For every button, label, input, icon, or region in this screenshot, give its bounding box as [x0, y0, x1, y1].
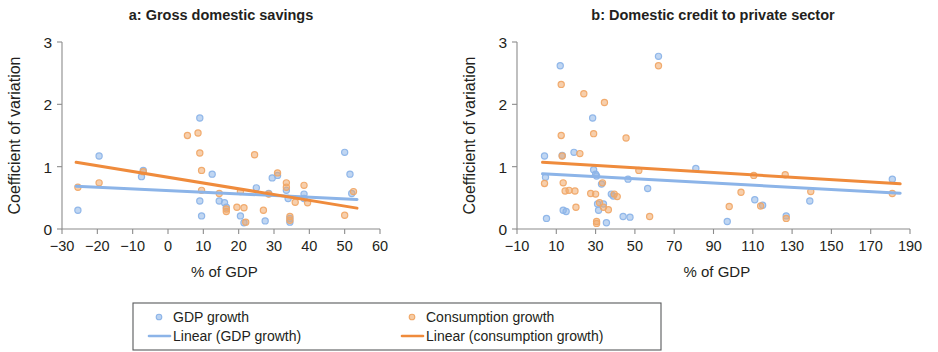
data-point: [195, 130, 201, 136]
x-tick-label: 10: [548, 238, 564, 254]
data-point: [758, 203, 764, 209]
data-point: [572, 188, 578, 194]
data-point: [342, 212, 348, 218]
data-point: [593, 220, 599, 226]
data-point: [566, 187, 572, 193]
data-point: [599, 180, 605, 186]
legend-label: Linear (consumption growth): [426, 328, 603, 344]
x-tick-label: 130: [780, 238, 804, 254]
y-tick-label: 1: [43, 159, 52, 176]
legend-label: GDP growth: [173, 309, 249, 325]
data-point: [620, 213, 626, 219]
panel-title-b: b: Domestic credit to private sector: [591, 7, 835, 23]
data-point: [724, 218, 730, 224]
data-point: [559, 153, 565, 159]
data-point: [560, 180, 566, 186]
data-point: [541, 180, 547, 186]
data-point: [591, 131, 597, 137]
data-point: [184, 132, 190, 138]
data-point: [197, 115, 203, 121]
data-point: [623, 135, 629, 141]
y-tick-label: 2: [43, 96, 52, 113]
data-point: [237, 213, 243, 219]
data-point: [543, 215, 549, 221]
data-point: [603, 220, 609, 226]
data-point: [96, 153, 102, 159]
data-point: [738, 189, 744, 195]
data-point: [251, 152, 257, 158]
data-point: [647, 213, 653, 219]
data-point: [292, 199, 298, 205]
data-point: [260, 207, 266, 213]
data-point: [342, 149, 348, 155]
legend-label: Consumption growth: [426, 309, 554, 325]
x-tick-label: −10: [505, 238, 530, 254]
data-point: [96, 180, 102, 186]
x-tick-label: 70: [666, 238, 682, 254]
legend-item-consumption-growth[interactable]: Consumption growth: [409, 309, 554, 325]
x-tick-label: 110: [741, 238, 764, 254]
data-point: [287, 217, 293, 223]
x-tick-label: 30: [588, 238, 604, 254]
y-axis-label-a: Coefficient of variation: [6, 56, 23, 214]
data-point: [301, 182, 307, 188]
data-point: [783, 215, 789, 221]
figure-root: a: Gross domestic savings−30−20−10010203…: [0, 0, 938, 352]
data-point: [75, 207, 81, 213]
x-tick-label: 20: [231, 238, 247, 254]
data-point: [197, 150, 203, 156]
x-tick-label: 0: [164, 238, 172, 254]
data-point: [571, 149, 577, 155]
y-tick-label: 1: [498, 159, 507, 176]
x-tick-label: 60: [372, 238, 388, 254]
y-tick-label: 2: [498, 96, 507, 113]
y-axis-label-b: Coefficient of variation: [461, 56, 478, 214]
legend-label: Linear (GDP growth): [173, 328, 301, 344]
x-tick-label: 50: [627, 238, 643, 254]
data-point: [655, 53, 661, 59]
legend-item-linear-consumption-growth[interactable]: Linear (consumption growth): [402, 328, 603, 344]
data-point: [209, 171, 215, 177]
data-point: [243, 219, 249, 225]
x-tick-label: 190: [898, 238, 922, 254]
data-point: [283, 184, 289, 190]
legend-marker-icon: [156, 314, 162, 320]
data-point: [655, 63, 661, 69]
data-point: [262, 218, 268, 224]
x-tick-label: −20: [85, 238, 110, 254]
x-tick-label: 30: [266, 238, 282, 254]
x-axis-label-a: % of GDP: [191, 263, 258, 280]
x-tick-label: 10: [195, 238, 211, 254]
data-point: [350, 189, 356, 195]
data-point: [223, 208, 229, 214]
data-point: [198, 167, 204, 173]
data-point: [541, 153, 547, 159]
data-point: [557, 63, 563, 69]
legend-marker-icon: [409, 314, 415, 320]
data-point: [590, 115, 596, 121]
x-tick-label: 170: [859, 238, 883, 254]
y-tick-label: 3: [498, 34, 507, 51]
panel-title-a: a: Gross domestic savings: [129, 7, 314, 23]
data-point: [573, 204, 579, 210]
data-point: [601, 99, 607, 105]
data-point: [889, 176, 895, 182]
data-point: [274, 170, 280, 176]
data-point: [234, 204, 240, 210]
data-point: [807, 198, 813, 204]
data-point: [197, 198, 203, 204]
x-tick-label: 50: [337, 238, 353, 254]
x-tick-label: 150: [819, 238, 843, 254]
data-point: [593, 191, 599, 197]
data-point: [558, 81, 564, 87]
data-point: [614, 193, 620, 199]
x-axis-label-b: % of GDP: [684, 263, 751, 280]
data-point: [198, 213, 204, 219]
x-tick-label: 90: [705, 238, 721, 254]
data-point: [645, 185, 651, 191]
y-tick-label: 0: [498, 221, 507, 238]
y-tick-label: 0: [43, 221, 52, 238]
y-tick-label: 3: [43, 34, 52, 51]
data-point: [347, 171, 353, 177]
x-tick-label: 40: [301, 238, 317, 254]
